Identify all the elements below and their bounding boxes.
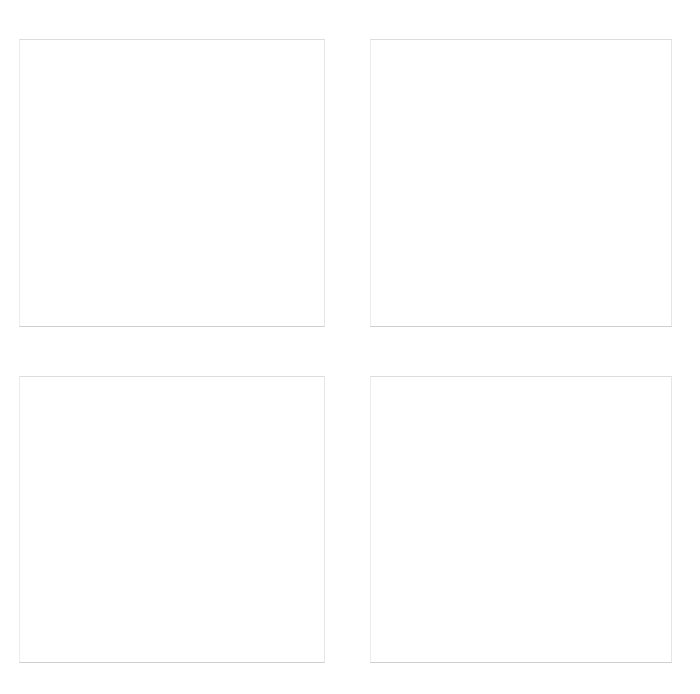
panel-top-left	[19, 39, 325, 327]
panel-bottom-right	[370, 376, 672, 663]
panel-bottom-left	[19, 376, 325, 663]
panel-top-right	[370, 39, 672, 327]
